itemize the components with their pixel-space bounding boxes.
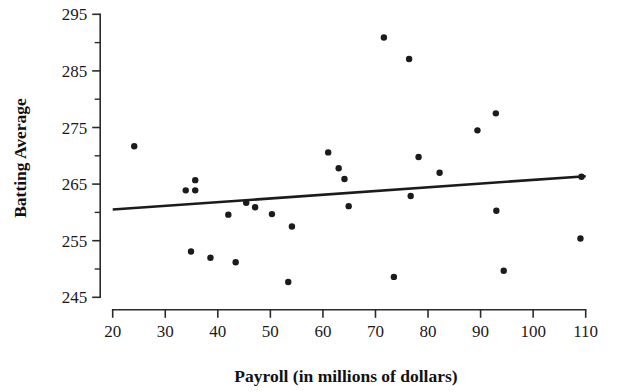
data-point [207, 254, 213, 260]
data-point [325, 149, 331, 155]
data-point [131, 143, 137, 149]
data-point [381, 34, 387, 40]
plot-canvas: 245255265275285295 203040506070809010011… [0, 0, 632, 392]
y-tick-label: 245 [62, 288, 88, 307]
x-axis [113, 310, 586, 318]
data-point [577, 235, 583, 241]
x-tick-label: 90 [472, 322, 489, 341]
x-tick-label: 60 [314, 322, 331, 341]
data-point [188, 248, 194, 254]
data-point [501, 267, 507, 273]
scatter-plot-figure: 245255265275285295 203040506070809010011… [0, 0, 632, 392]
x-axis-title: Payroll (in millions of dollars) [234, 366, 457, 386]
x-tick-label: 40 [209, 322, 226, 341]
x-tick-label: 70 [367, 322, 384, 341]
data-point [252, 204, 258, 210]
data-point [415, 154, 421, 160]
y-tick-label: 265 [62, 175, 88, 194]
x-tick-label: 100 [520, 322, 546, 341]
data-point [474, 127, 480, 133]
x-tick-label: 20 [104, 322, 121, 341]
x-tick-label: 30 [157, 322, 174, 341]
data-point [493, 110, 499, 116]
y-axis [92, 14, 100, 297]
data-points [131, 34, 585, 285]
data-point [391, 274, 397, 280]
data-point [345, 203, 351, 209]
data-point [269, 211, 275, 217]
x-tick-label: 80 [420, 322, 437, 341]
y-tick-label: 285 [62, 62, 88, 81]
y-tick-label: 295 [62, 5, 88, 24]
data-point [335, 165, 341, 171]
data-point [192, 187, 198, 193]
x-axis-tick-labels: 2030405060708090100110 [104, 322, 598, 341]
data-point [183, 187, 189, 193]
data-point [341, 176, 347, 182]
data-point [406, 56, 412, 62]
y-tick-label: 255 [62, 232, 88, 251]
y-axis-tick-labels: 245255265275285295 [62, 5, 88, 307]
data-point [225, 211, 231, 217]
x-tick-label: 50 [262, 322, 279, 341]
x-tick-label: 110 [573, 322, 598, 341]
data-point [407, 193, 413, 199]
y-axis-title: Batting Average [10, 98, 30, 218]
y-tick-label: 275 [62, 119, 88, 138]
data-point [289, 223, 295, 229]
data-point [493, 208, 499, 214]
data-point [232, 259, 238, 265]
data-point [285, 279, 291, 285]
data-point [436, 170, 442, 176]
data-point [192, 177, 198, 183]
